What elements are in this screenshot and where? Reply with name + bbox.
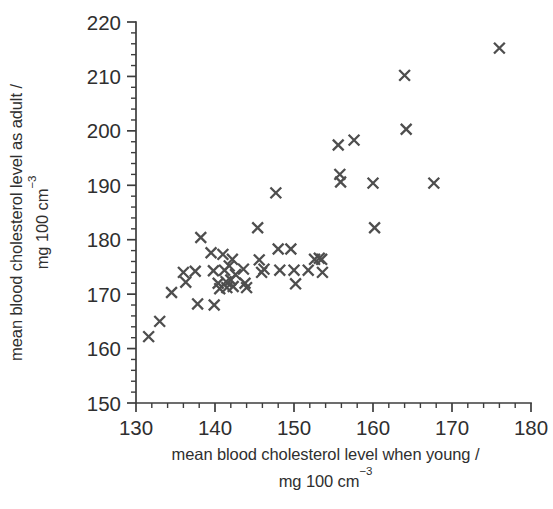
y-tick-label: 200 xyxy=(87,119,121,142)
plot-canvas: 1501601701801902002102201301401501601701… xyxy=(0,0,553,509)
data-point-marker xyxy=(349,135,360,146)
data-point-marker xyxy=(270,188,281,199)
data-point-marker xyxy=(180,277,191,288)
data-point-marker xyxy=(178,267,189,278)
x-tick-label: 130 xyxy=(119,416,153,439)
data-point-marker xyxy=(190,266,201,277)
x-axis-title-line2: mg 100 cm−3 xyxy=(279,465,373,490)
data-point-marker xyxy=(368,178,379,189)
data-point-marker xyxy=(399,70,410,81)
data-point-marker xyxy=(494,43,505,54)
data-point-marker xyxy=(369,222,380,233)
y-tick-label: 180 xyxy=(87,228,121,251)
y-tick-label: 150 xyxy=(87,392,121,415)
x-tick-label: 160 xyxy=(356,416,390,439)
data-point-marker xyxy=(289,265,300,276)
data-point-marker xyxy=(209,300,220,311)
data-point-marker xyxy=(285,244,296,255)
data-point-marker xyxy=(195,232,206,243)
x-axis-title-line1: mean blood cholesterol level when young … xyxy=(172,445,480,463)
data-point-marker xyxy=(274,265,285,276)
y-tick-label: 170 xyxy=(87,283,121,306)
data-point-marker xyxy=(208,265,219,276)
data-point-marker xyxy=(333,140,344,151)
data-point-marker xyxy=(290,278,301,289)
data-point-marker xyxy=(252,222,263,233)
x-tick-label: 170 xyxy=(435,416,469,439)
data-point-marker xyxy=(166,287,177,298)
data-point-marker xyxy=(335,177,346,188)
x-tick-label: 150 xyxy=(277,416,311,439)
data-point-marker xyxy=(192,299,203,310)
data-point-marker xyxy=(143,331,154,342)
y-axis-title-line2: mg 100 cm−3 xyxy=(26,176,51,270)
data-point-marker xyxy=(206,247,217,258)
y-tick-label: 210 xyxy=(87,65,121,88)
y-axis-title-line1: mean blood cholesterol level as adult / xyxy=(7,84,25,361)
data-point-marker xyxy=(273,244,284,255)
data-point-marker xyxy=(303,265,314,276)
data-point-marker xyxy=(317,267,328,278)
y-tick-label: 190 xyxy=(87,174,121,197)
data-point-marker xyxy=(428,178,439,189)
data-points-group xyxy=(143,43,505,342)
scatter-plot-figure: 1501601701801902002102201301401501601701… xyxy=(0,0,553,509)
y-tick-label: 220 xyxy=(87,11,121,34)
y-tick-label: 160 xyxy=(87,337,121,360)
data-point-marker xyxy=(154,316,165,327)
x-tick-label: 140 xyxy=(198,416,232,439)
x-tick-label: 180 xyxy=(514,416,548,439)
data-point-marker xyxy=(401,124,412,135)
